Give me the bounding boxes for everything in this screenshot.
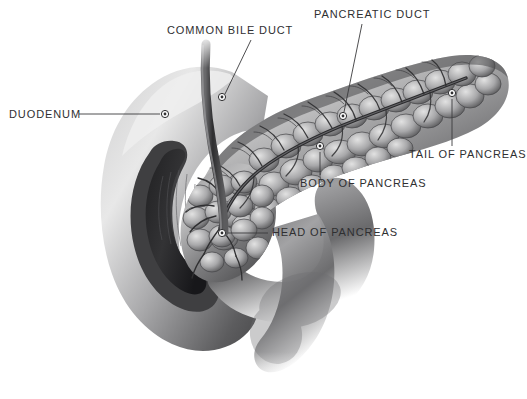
- label-pancreatic-duct: PANCREATIC DUCT: [314, 8, 430, 20]
- label-common-bile-duct: COMMON BILE DUCT: [167, 24, 293, 36]
- label-head-of-pancreas: HEAD OF PANCREAS: [272, 226, 398, 238]
- label-duodenum: DUODENUM: [9, 108, 81, 120]
- label-tail-of-pancreas: TAIL OF PANCREAS: [409, 148, 527, 160]
- label-body-of-pancreas: BODY OF PANCREAS: [300, 177, 426, 189]
- anatomy-figure: DUODENUM COMMON BILE DUCT PANCREATIC DUC…: [0, 0, 527, 399]
- label-layer: DUODENUM COMMON BILE DUCT PANCREATIC DUC…: [0, 0, 527, 399]
